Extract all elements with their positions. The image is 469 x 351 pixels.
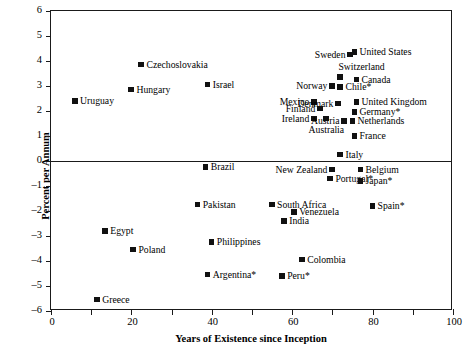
y-axis-tick: –5 [46,286,51,287]
x-axis-tick [172,309,173,315]
y-axis-tick-label: 4 [37,54,42,65]
y-axis-tick: 5 [46,36,51,37]
data-point-marker [195,202,201,208]
data-point-label: Israel [213,80,235,90]
x-axis-title: Years of Existence since Inception [50,333,452,344]
y-axis-tick: –3 [46,236,51,237]
data-point-marker [269,202,275,208]
data-point-marker [358,178,364,184]
data-point-label: Finland [286,104,316,114]
data-point-label: Egypt [110,226,133,236]
x-axis-tick: 60 [292,309,293,315]
y-axis-tick: 4 [46,61,51,62]
data-point-marker [138,62,144,68]
data-point-marker [358,167,364,173]
x-axis-tick-label: 0 [49,316,54,327]
data-point-label: Peru* [287,271,310,281]
x-axis-tick-label: 60 [288,316,299,327]
data-point-label: Poland [138,245,165,255]
x-axis-tick-label: 40 [208,316,219,327]
y-axis-tick-label: –4 [32,254,43,265]
x-axis-tick [413,309,414,315]
x-axis-tick-label: 100 [446,316,462,327]
data-point-label: Sweden [315,50,346,60]
data-point-marker [335,101,341,107]
y-axis-tick: 3 [46,86,51,87]
data-point-marker [130,247,136,253]
y-axis-tick: 0 [46,161,51,162]
data-point-marker [329,83,335,89]
x-axis-tick: 80 [373,309,374,315]
data-point-label: Netherlands [358,116,405,126]
data-point-label: Australia [309,125,345,135]
y-axis-tick: 2 [46,111,51,112]
data-point-marker [327,176,333,182]
data-point-marker [354,99,360,105]
y-axis-tick-label: –5 [32,279,43,290]
data-point-marker [370,203,376,209]
x-axis-tick: 20 [131,309,132,315]
data-point-label: Hungary [136,85,170,95]
data-point-label: Philippines [217,237,261,247]
data-point-label: France [360,131,386,141]
data-point-label: Spain* [378,201,405,211]
scatter-chart-figure: Percent per Annum Years of Existence sin… [0,0,469,351]
data-point-marker [352,133,358,139]
data-point-marker [299,257,305,263]
data-point-label: Chile* [345,82,371,92]
y-axis-tick-label: 6 [37,4,42,15]
y-axis-tick: 1 [46,136,51,137]
data-point-marker [352,109,358,115]
data-point-label: Switzerland [338,62,384,72]
x-axis-tick: 0 [51,309,52,315]
x-axis-tick-label: 80 [368,316,379,327]
data-point-label: Colombia [307,255,345,265]
y-axis-tick: 6 [46,11,51,12]
data-point-marker [94,297,100,303]
data-point-label: Japan* [366,176,393,186]
data-point-label: Argentina* [213,270,256,280]
zero-reference-line [51,161,451,162]
data-point-label: Pakistan [203,200,236,210]
data-point-marker [281,218,287,224]
x-axis-tick [252,309,253,315]
data-point-marker [209,239,215,245]
y-axis-tick-label: –3 [32,229,43,240]
plot-area: 6543210–1–2–3–4–5–6 020406080100 Uruguay… [50,10,452,310]
data-point-marker [317,106,323,112]
data-point-label: New Zealand [275,165,327,175]
y-axis-tick: –1 [46,186,51,187]
y-axis-tick-label: –6 [32,304,43,315]
data-point-marker [337,74,343,80]
data-point-marker [128,87,134,93]
data-point-marker [323,116,329,122]
data-point-marker [337,152,343,158]
data-point-marker [72,98,78,104]
y-axis-tick-label: 5 [37,29,42,40]
y-axis-tick: –4 [46,261,51,262]
data-point-label: Czechoslovakia [146,60,207,70]
x-axis-tick-label: 20 [127,316,138,327]
x-axis-tick: 100 [453,309,454,315]
data-point-marker [203,164,209,170]
x-axis-tick [332,309,333,315]
data-point-label: Ireland [282,114,309,124]
data-point-marker [279,273,285,279]
data-point-marker [205,82,211,88]
data-point-marker [352,49,358,55]
data-point-label: United States [360,47,412,57]
data-point-marker [205,272,211,278]
y-axis-tick-label: –1 [32,179,43,190]
y-axis-tick-label: 1 [37,129,42,140]
x-axis-tick [91,309,92,315]
y-axis-tick-label: 0 [37,154,42,165]
data-point-label: Greece [102,295,129,305]
data-point-label: India [289,216,309,226]
data-point-marker [291,209,297,215]
y-axis-tick: –2 [46,211,51,212]
data-point-marker [329,167,335,173]
x-axis-tick: 40 [212,309,213,315]
y-axis-tick-label: –2 [32,204,43,215]
data-point-label: Norway [296,81,327,91]
data-point-label: Brazil [211,162,235,172]
